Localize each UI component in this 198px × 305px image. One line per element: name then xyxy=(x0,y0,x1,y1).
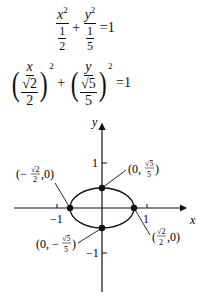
leader-top xyxy=(102,170,126,188)
svg-text:(: ( xyxy=(152,230,156,244)
svg-text:): ) xyxy=(155,162,159,176)
svg-text:): ) xyxy=(72,237,76,251)
svg-text:(−: (− xyxy=(16,167,27,181)
tick-label-x-pos1: 1 xyxy=(143,212,149,226)
svg-text:,0): ,0) xyxy=(41,167,54,181)
tick-label-y-neg1: −1 xyxy=(86,246,99,260)
x-axis-label: x xyxy=(189,213,196,227)
tick-label-x-neg1: −1 xyxy=(50,212,63,226)
point-top-vertex xyxy=(99,185,105,191)
svg-text:(0,: (0, xyxy=(128,162,141,176)
svg-text:5: 5 xyxy=(147,170,151,179)
y-axis-label: y xyxy=(91,115,98,129)
point-bottom-vertex xyxy=(99,225,105,231)
label-left-vertex: (− √2 2 ,0) xyxy=(16,165,54,184)
label-bottom-vertex: (0, − √5 5 ) xyxy=(36,234,76,254)
label-top-vertex: (0, √5 5 ) xyxy=(128,159,159,179)
ellipse-graph: x y −1 1 1 −1 (− √2 2 ,0) (0, √5 5 ) ( √… xyxy=(0,0,198,305)
tick-label-y-pos1: 1 xyxy=(92,156,98,170)
svg-text:2: 2 xyxy=(33,175,37,184)
leader-bottom xyxy=(78,228,102,243)
svg-text:5: 5 xyxy=(64,245,68,254)
svg-text:√5: √5 xyxy=(62,234,70,243)
point-left-vertex xyxy=(67,205,73,211)
svg-text:√2: √2 xyxy=(31,165,39,174)
point-right-vertex xyxy=(131,205,137,211)
svg-text:2: 2 xyxy=(159,238,163,247)
svg-text:√2: √2 xyxy=(157,227,165,236)
svg-text:(0, −: (0, − xyxy=(36,237,59,251)
svg-text:,0): ,0) xyxy=(167,230,180,244)
svg-text:√5: √5 xyxy=(145,159,153,168)
label-right-vertex: ( √2 2 ,0) xyxy=(152,227,180,247)
